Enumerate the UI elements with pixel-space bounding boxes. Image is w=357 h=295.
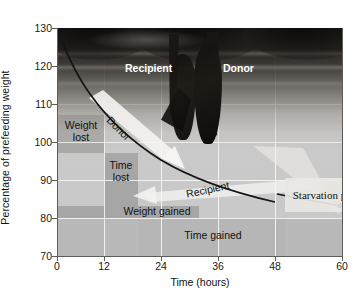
y-tick-120 <box>52 66 57 67</box>
y-tick-100 <box>52 142 57 143</box>
y-tick-label-120: 120 <box>26 61 52 72</box>
label-weight-lost: Weight lost <box>59 120 103 143</box>
x-tick-label-36: 36 <box>203 261 233 272</box>
y-tick-label-80: 80 <box>26 213 52 224</box>
x-axis-line <box>57 256 343 257</box>
y-tick-label-130: 130 <box>26 23 52 34</box>
x-tick-label-0: 0 <box>42 261 72 272</box>
y-tick-130 <box>52 28 57 29</box>
photo-label-donor: Donor <box>223 63 254 74</box>
y-axis-line <box>57 28 58 257</box>
y-axis-title: Percentage of prefeeding weight <box>0 0 11 295</box>
x-tick-label-48: 48 <box>260 261 290 272</box>
x-tick-label-12: 12 <box>89 261 119 272</box>
y-tick-label-90: 90 <box>26 175 52 186</box>
y-tick-label-70: 70 <box>26 251 52 262</box>
y-tick-label-100: 100 <box>26 137 52 148</box>
x-axis-title: Time (hours) <box>57 276 343 288</box>
x-tick-label-60: 60 <box>327 261 357 272</box>
plot-area: Recipient Donor Weight lost Time lost We… <box>57 28 342 256</box>
donor-starvation-curve <box>57 28 275 202</box>
label-weight-gained: Weight gained <box>115 206 199 218</box>
photo-label-recipient: Recipient <box>125 63 172 74</box>
y-tick-label-110: 110 <box>26 99 52 110</box>
y-tick-90 <box>52 180 57 181</box>
y-tick-110 <box>52 104 57 105</box>
x-tick-label-24: 24 <box>146 261 176 272</box>
figure-root: Recipient Donor Weight lost Time lost We… <box>0 0 357 295</box>
y-tick-80 <box>52 218 57 219</box>
label-time-lost: Time lost <box>103 160 139 183</box>
label-time-gained: Time gained <box>175 230 251 242</box>
plot-right-border <box>342 28 343 257</box>
starvation-point-callout: Starvation point <box>285 178 342 212</box>
